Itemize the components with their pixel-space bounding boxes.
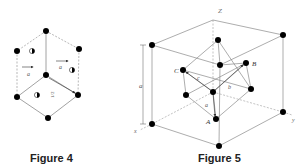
z-axis-label: Z [218,7,222,15]
label-C: C [174,67,179,75]
label-vec-c: c [197,75,200,81]
y-axis-label: y [291,117,295,123]
half-vector-arrow [49,78,75,93]
label-vec-b: b [228,84,231,90]
figure-5-caption: Figure 5 [198,152,241,164]
label-B: B [252,60,257,68]
x-axis-label: x [133,128,137,134]
atoms-fig4 [14,28,82,121]
atoms-fig5 [149,32,286,149]
figure-4: a a 1/2 [14,28,82,121]
label-a-right: a [59,64,62,70]
figure-5: Z x y a A B C a b c [133,7,295,149]
label-vec-a: a [205,102,208,108]
label-A: A [205,118,211,126]
figure-4-caption: Figure 4 [30,152,73,164]
diagram-canvas: a a 1/2 [0,0,306,168]
label-half: 1/2 [50,91,55,98]
half-atoms-fig4 [29,48,74,97]
label-a-left: a [27,71,30,77]
edge-length-label: a [139,82,143,90]
